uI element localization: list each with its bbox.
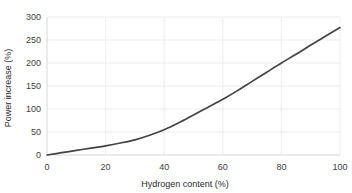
data-series-group: [47, 28, 340, 155]
y-tick-label: 300: [26, 12, 41, 22]
x-tick-label: 100: [332, 162, 347, 172]
chart-plot-svg: 050100150200250300 020406080100 Hydrogen…: [0, 0, 352, 193]
x-tick-label: 60: [218, 162, 228, 172]
y-tick-label: 0: [36, 150, 41, 160]
chart-figure: 050100150200250300 020406080100 Hydrogen…: [0, 0, 352, 193]
y-tick-label: 200: [26, 58, 41, 68]
x-tick-label: 20: [101, 162, 111, 172]
y-tick-label: 100: [26, 104, 41, 114]
y-tick-label: 250: [26, 35, 41, 45]
x-tick-label: 80: [276, 162, 286, 172]
y-tick-label: 150: [26, 81, 41, 91]
x-axis-tick-labels: 020406080100: [44, 162, 347, 172]
x-axis-title: Hydrogen content (%): [141, 179, 229, 189]
data-line-0: [47, 28, 340, 155]
x-tick-label: 0: [44, 162, 49, 172]
y-axis-tick-labels: 050100150200250300: [26, 12, 41, 160]
x-tick-label: 40: [159, 162, 169, 172]
y-tick-label: 50: [31, 127, 41, 137]
y-axis-title: Power increase (%): [3, 49, 13, 128]
